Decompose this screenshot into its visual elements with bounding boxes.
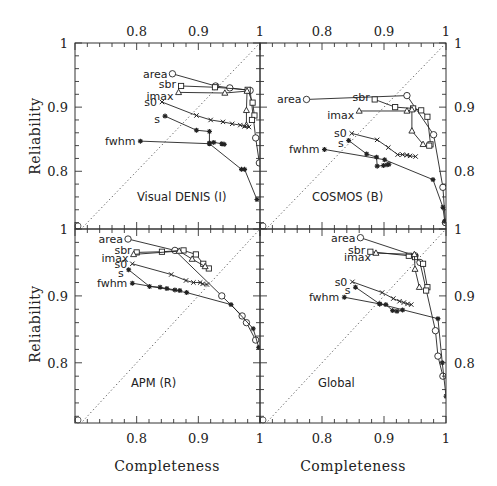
circle-marker [252, 135, 258, 141]
triangle-marker [176, 89, 182, 94]
star-marker [163, 114, 168, 119]
bottom-x-tick-label: 0.8 [312, 431, 333, 446]
panel-apm-r: areasbrimaxs0sfwhmAPM (R) [75, 229, 261, 430]
series-label-fwhm: fwhm [289, 143, 319, 156]
star-marker [158, 285, 163, 290]
series-s0 [130, 262, 209, 287]
series-imax [356, 107, 426, 147]
star-marker [138, 139, 143, 144]
circle-marker [125, 236, 131, 242]
series-fwhm [322, 147, 447, 224]
reliability-completeness-figure: areasbrimaxs0sfwhmVisual DENIS (I)areasb… [0, 0, 497, 486]
square-marker [424, 288, 429, 293]
square-marker [427, 143, 432, 148]
star-marker [222, 142, 227, 147]
panel-visual-denis-i: areasbrimaxs0sfwhmVisual DENIS (I) [75, 43, 263, 235]
series-s0 [160, 100, 251, 129]
right-y-tick-label: 1 [454, 222, 462, 237]
circle-marker [219, 293, 225, 299]
circle-marker [357, 234, 363, 240]
y-axis-title-top: Reliability [27, 97, 43, 175]
diagonal-reference-line [260, 43, 446, 235]
square-marker [372, 97, 377, 102]
circle-marker [169, 71, 175, 77]
right-y-tick-label: 0.9 [454, 100, 475, 115]
panel-cosmos-b: areasbrimaxs0sfwhmCOSMOS (B) [260, 43, 449, 235]
series-label-sbr: sbr [352, 91, 370, 104]
cross-marker [380, 290, 384, 294]
star-marker [322, 147, 327, 152]
star-marker [377, 301, 382, 306]
circle-marker [440, 184, 446, 190]
triangle-marker [412, 266, 418, 271]
bottom-x-tick-label: 0.9 [188, 431, 209, 446]
top-x-tick-label: 0.9 [374, 24, 395, 39]
cross-marker [391, 296, 395, 300]
star-marker [184, 290, 189, 295]
triangle-marker [243, 107, 249, 112]
bottom-x-tick-label: 0.8 [126, 431, 147, 446]
square-marker [425, 114, 430, 119]
circle-marker [432, 327, 438, 333]
series-sbr [178, 83, 257, 122]
square-marker [193, 252, 198, 257]
star-marker [364, 151, 369, 156]
triangle-marker [416, 284, 422, 289]
top-x-tick-label: 0.8 [312, 24, 333, 39]
panel-title: Visual DENIS (I) [137, 190, 226, 204]
panel-title: Global [318, 376, 355, 390]
star-marker [382, 157, 387, 162]
circle-marker [243, 319, 249, 325]
star-marker [211, 140, 216, 145]
right-y-tick-label: 0.8 [454, 164, 475, 179]
series-label-s: s [338, 137, 344, 150]
cross-marker [350, 280, 354, 284]
star-marker [207, 141, 212, 146]
right-y-tick-label: 1 [454, 36, 462, 51]
series-imax [373, 250, 422, 290]
star-marker [254, 197, 259, 202]
series-area [303, 92, 448, 225]
star-marker [207, 129, 212, 134]
star-marker [346, 138, 351, 143]
star-marker [435, 316, 440, 321]
panel-title: APM (R) [131, 376, 176, 390]
series-label-imax: imax [344, 251, 372, 264]
top-x-tick-label: 0.9 [188, 24, 209, 39]
circle-marker [430, 132, 436, 138]
right-y-tick-label: 0.9 [454, 289, 475, 304]
series-label-s0: s0 [144, 96, 157, 109]
series-label-imax: imax [327, 109, 355, 122]
series-label-s: s [154, 113, 160, 126]
square-marker [178, 83, 183, 88]
square-marker [159, 249, 164, 254]
star-marker [375, 164, 380, 169]
left-y-tick-label: 0.8 [47, 356, 68, 371]
square-marker [250, 100, 255, 105]
square-marker [212, 85, 217, 90]
bottom-x-tick-label: 0.9 [374, 431, 395, 446]
series-label-fwhm: fwhm [105, 135, 135, 148]
series-s0 [350, 280, 413, 307]
x-axis-title-left: Completeness [114, 458, 220, 474]
left-y-tick-label: 0.9 [47, 289, 68, 304]
panels-layer: areasbrimaxs0sfwhmVisual DENIS (I)areasb… [75, 43, 449, 430]
left-y-tick-label: 0.9 [47, 100, 68, 115]
series-sbr [372, 97, 433, 148]
star-marker [353, 285, 358, 290]
top-x-tick-label: 1 [256, 24, 264, 39]
top-x-tick-label: 1 [442, 24, 450, 39]
star-marker [130, 281, 135, 286]
square-marker [420, 261, 425, 266]
star-marker [442, 219, 447, 224]
series-s [346, 138, 391, 169]
series-s0 [350, 131, 418, 158]
circle-marker [435, 353, 441, 359]
series-imax [176, 88, 250, 127]
series-label-s: s [345, 284, 351, 297]
top-x-tick-label: 0.8 [126, 24, 147, 39]
star-marker [395, 309, 400, 314]
circle-marker [404, 92, 410, 98]
star-marker [177, 288, 182, 293]
bottom-x-tick-label: 1 [256, 431, 264, 446]
